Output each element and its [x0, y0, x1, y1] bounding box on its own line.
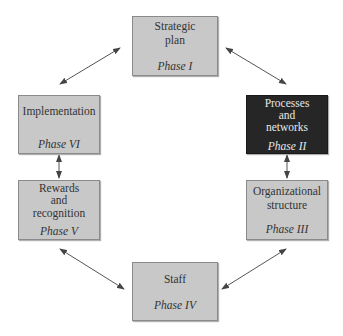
node-phase: Phase I	[158, 59, 193, 73]
node-rewards-recognition: Rewards and recognition Phase V	[18, 180, 100, 240]
node-strategic-plan: Strategic plan Phase I	[132, 16, 218, 76]
node-processes-networks: Processes and networks Phase II	[246, 95, 328, 154]
node-implementation: Implementation Phase VI	[18, 95, 100, 154]
arrow-phase5-phase4	[60, 249, 124, 289]
arrow-phase1-phase2	[226, 48, 286, 84]
node-title: Strategic plan	[155, 19, 196, 47]
node-title: Processes and networks	[265, 97, 310, 133]
node-phase: Phase II	[268, 139, 307, 153]
node-title: Organizational structure	[253, 184, 321, 212]
node-phase: Phase III	[266, 222, 308, 236]
node-title: Staff	[164, 272, 186, 286]
node-phase: Phase VI	[38, 137, 80, 151]
arrow-phase3-phase4	[222, 249, 286, 289]
node-organizational-structure: Organizational structure Phase III	[246, 180, 328, 240]
node-phase: Phase IV	[154, 298, 196, 312]
node-title: Rewards and recognition	[33, 182, 85, 220]
node-staff: Staff Phase IV	[132, 262, 218, 321]
node-phase: Phase V	[40, 224, 78, 238]
arrow-phase1-phase6	[60, 48, 120, 84]
node-title: Implementation	[23, 104, 96, 118]
